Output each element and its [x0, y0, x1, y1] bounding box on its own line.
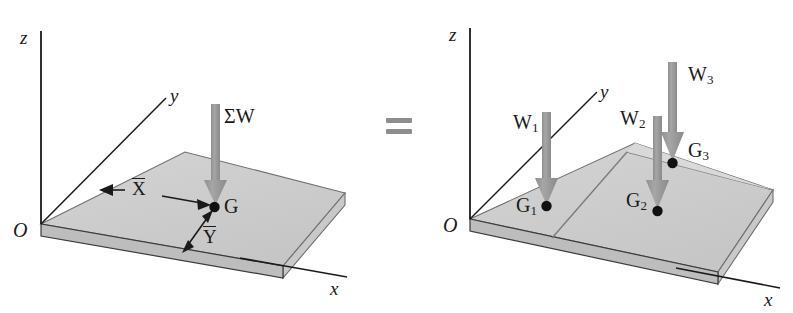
- w3-arrow: [661, 62, 684, 161]
- g3-label-text: G: [688, 139, 702, 161]
- g3-label: G3: [688, 140, 709, 162]
- equals-bar-top: [386, 118, 412, 123]
- g-label: G: [224, 196, 238, 216]
- right-diagram: [470, 28, 780, 288]
- w3-label-sub: 3: [707, 72, 714, 87]
- w2-label: W2: [620, 108, 645, 130]
- w3-label: W3: [688, 64, 713, 86]
- left-plate: [41, 152, 345, 278]
- figure-canvas: [0, 0, 793, 313]
- left-x-axis-label: x: [330, 279, 338, 298]
- g1-label-sub: 1: [530, 203, 537, 218]
- sigma-w-label: ΣW: [224, 106, 255, 126]
- g1-point: [541, 201, 551, 211]
- g2-label-text: G: [626, 189, 640, 211]
- x-bar-text: X: [132, 179, 146, 198]
- left-origin-label: O: [13, 220, 27, 240]
- w2-label-text: W: [620, 107, 639, 129]
- y-bar-text: Y: [203, 227, 217, 246]
- right-y-axis-label: y: [600, 82, 608, 101]
- w1-label: W1: [513, 112, 538, 134]
- equals-bar-bottom: [386, 129, 412, 134]
- w3-label-text: W: [688, 63, 707, 85]
- g2-label-sub: 2: [640, 198, 647, 213]
- g1-label: G1: [516, 195, 537, 217]
- w1-label-text: W: [513, 111, 532, 133]
- right-z-axis-label: z: [449, 25, 456, 44]
- w2-label-sub: 2: [639, 116, 646, 131]
- left-z-axis-label: z: [20, 28, 27, 47]
- equals-sign: [386, 118, 412, 134]
- w1-label-sub: 1: [532, 120, 539, 135]
- y-bar-label: Y: [203, 227, 217, 246]
- g3-point: [667, 158, 677, 168]
- g1-label-text: G: [516, 194, 530, 216]
- figure-root: z y x O ΣW G X Y z y x O W1 W2 W3 G1 G2 …: [0, 0, 793, 313]
- right-origin-label: O: [443, 215, 457, 235]
- g2-point: [652, 206, 662, 216]
- left-y-axis-label: y: [170, 86, 178, 105]
- x-bar-label: X: [132, 179, 146, 198]
- g3-label-sub: 3: [702, 148, 709, 163]
- left-diagram: [41, 31, 347, 278]
- g2-label: G2: [626, 190, 647, 212]
- g-point: [209, 202, 219, 212]
- right-x-axis-label: x: [764, 290, 772, 309]
